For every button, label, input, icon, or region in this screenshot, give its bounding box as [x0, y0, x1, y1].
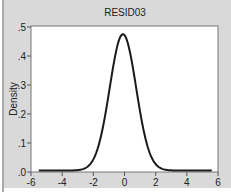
y-tick-label: .1 — [18, 138, 27, 149]
density-chart: RESID03 Density .0.1.2.3.4.5 -6-4-20246 — [0, 0, 231, 192]
y-tick-label: .5 — [18, 22, 27, 33]
chart-canvas: RESID03 Density .0.1.2.3.4.5 -6-4-20246 — [0, 0, 231, 192]
x-tick-label: 6 — [215, 177, 221, 188]
x-tick-label: 0 — [122, 177, 128, 188]
chart-title: RESID03 — [104, 7, 146, 18]
x-tick-label: -6 — [27, 177, 36, 188]
x-tick-label: 2 — [153, 177, 159, 188]
x-tick-label: -4 — [58, 177, 67, 188]
y-tick-label: .4 — [18, 51, 27, 62]
y-tick-label: .3 — [18, 80, 27, 91]
plot-area — [31, 26, 218, 172]
x-tick-label: 4 — [184, 177, 190, 188]
y-tick-label: .0 — [18, 167, 27, 178]
y-tick-label: .2 — [18, 109, 27, 120]
x-tick-label: -2 — [89, 177, 98, 188]
